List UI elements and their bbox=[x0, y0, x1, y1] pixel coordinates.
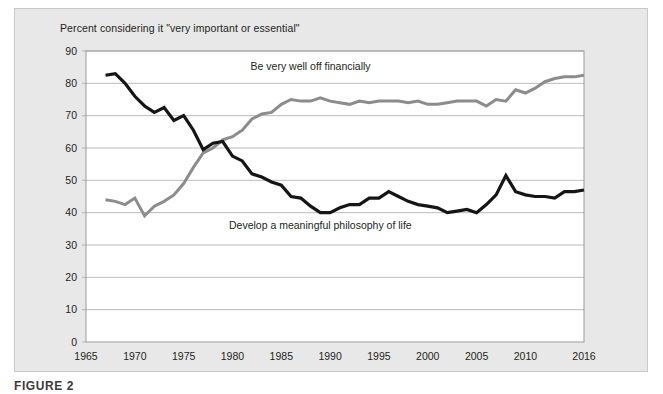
y-tick-label: 40 bbox=[65, 206, 77, 218]
x-tick-label: 1980 bbox=[221, 350, 245, 362]
y-tick-label: 0 bbox=[71, 336, 77, 348]
y-tick-label: 20 bbox=[65, 271, 77, 283]
figure-container: Percent considering it "very important o… bbox=[0, 0, 663, 394]
x-tick-label: 2016 bbox=[572, 350, 596, 362]
series-label-financial: Be very well off financially bbox=[251, 60, 372, 72]
y-tick-label: 80 bbox=[65, 77, 77, 89]
x-tick-label: 2010 bbox=[514, 350, 538, 362]
x-tick-label: 1975 bbox=[172, 350, 196, 362]
figure-caption: FIGURE 2 bbox=[14, 379, 74, 393]
x-tick-label: 2000 bbox=[416, 350, 440, 362]
x-tick-label: 1970 bbox=[123, 350, 147, 362]
y-tick-label: 10 bbox=[65, 303, 77, 315]
y-tick-label: 60 bbox=[65, 142, 77, 154]
x-tick-label: 1995 bbox=[367, 350, 391, 362]
chart-panel: Percent considering it "very important o… bbox=[14, 8, 648, 372]
x-tick-label: 1985 bbox=[270, 350, 294, 362]
x-tick-label: 1965 bbox=[74, 350, 98, 362]
y-tick-label: 50 bbox=[65, 174, 77, 186]
series-label-philosophy: Develop a meaningful philosophy of life bbox=[229, 219, 412, 231]
y-tick-label: 90 bbox=[65, 45, 77, 57]
x-tick-label: 1990 bbox=[318, 350, 342, 362]
plot-background bbox=[86, 51, 584, 342]
y-tick-label: 70 bbox=[65, 109, 77, 121]
x-tick-label: 2005 bbox=[465, 350, 489, 362]
line-chart-svg: 0102030405060708090196519701975198019851… bbox=[15, 9, 649, 373]
y-tick-label: 30 bbox=[65, 239, 77, 251]
